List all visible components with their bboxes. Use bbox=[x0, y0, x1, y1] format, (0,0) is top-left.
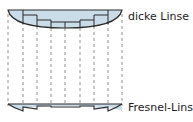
thick-lens bbox=[8, 10, 122, 28]
fresnel-lens bbox=[8, 104, 122, 111]
thick-lens-label: dicke Linse bbox=[128, 10, 189, 23]
fresnel-lens-label: Fresnel-Linse bbox=[128, 101, 193, 114]
